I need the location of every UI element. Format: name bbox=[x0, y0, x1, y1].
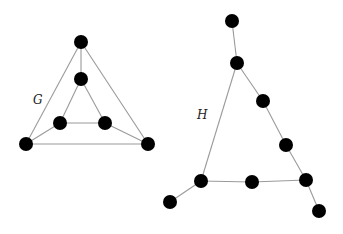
node-h_bottom_right bbox=[299, 173, 313, 187]
node-h_top bbox=[225, 14, 239, 28]
node-g_mid bbox=[74, 72, 88, 86]
node-g_inner_left bbox=[53, 116, 67, 130]
node-h_apex bbox=[230, 56, 244, 70]
edge-g_mid-g_inner_left bbox=[60, 79, 81, 123]
node-g_top bbox=[74, 35, 88, 49]
node-h_pendant_left bbox=[163, 195, 177, 209]
edges-layer bbox=[26, 21, 319, 211]
nodes-layer bbox=[19, 14, 326, 218]
node-h_right1 bbox=[256, 94, 270, 108]
edge-h_bottom_mid-h_bottom_right bbox=[252, 180, 306, 182]
node-h_pendant_right bbox=[312, 204, 326, 218]
graph-diagram: G H bbox=[0, 0, 343, 234]
node-h_bottom_mid bbox=[245, 175, 259, 189]
edge-g_mid-g_inner_right bbox=[81, 79, 105, 123]
graph-label-g: G bbox=[33, 93, 43, 107]
graph-label-h: H bbox=[196, 108, 208, 122]
node-g_outer_right bbox=[141, 137, 155, 151]
node-h_bottom_left bbox=[194, 174, 208, 188]
node-g_outer_left bbox=[19, 137, 33, 151]
node-h_right2 bbox=[279, 138, 293, 152]
node-g_inner_right bbox=[98, 116, 112, 130]
edge-g_top-g_outer_right bbox=[81, 42, 148, 144]
edge-h_apex-h_bottom_left bbox=[201, 63, 237, 181]
edge-h_right1-h_right2 bbox=[263, 101, 286, 145]
edge-h_bottom_left-h_bottom_mid bbox=[201, 181, 252, 182]
